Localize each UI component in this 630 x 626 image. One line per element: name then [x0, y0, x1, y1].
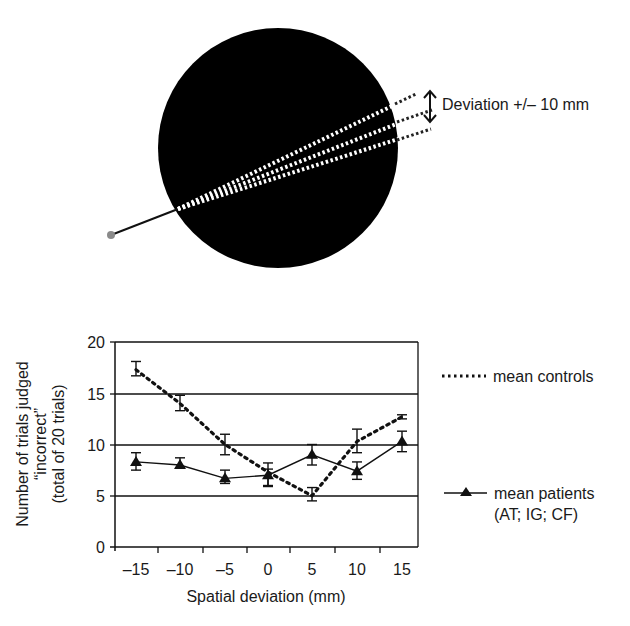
y-tick-0: 0	[96, 539, 105, 556]
triangle-marker-icon	[306, 449, 318, 459]
x-tick-m5: –5	[216, 561, 234, 578]
y-tick-15: 15	[87, 386, 105, 403]
legend: mean controls mean patients (AT; IG; CF)	[442, 368, 595, 523]
y-axis-label: Number of trials judged “incorrect” (tot…	[14, 361, 67, 526]
triangle-marker-icon	[174, 459, 186, 469]
figure-canvas: Deviation +/– 10 mm	[0, 0, 630, 626]
pointer-line	[111, 209, 178, 235]
y-tick-5: 5	[96, 488, 105, 505]
x-tick-m10: –10	[167, 561, 194, 578]
series-mean-controls	[131, 361, 407, 500]
target-circle	[158, 28, 398, 268]
x-tick-0: 0	[264, 561, 273, 578]
x-tick-10: 10	[348, 561, 366, 578]
x-tick-labels: –15 –10 –5 0 5 10 15	[123, 561, 411, 578]
x-tick-15: 15	[393, 561, 411, 578]
y-axis-label-line1: Number of trials judged	[14, 361, 31, 526]
legend-controls-label: mean controls	[493, 368, 594, 385]
y-axis-label-line3: (total of 20 trials)	[50, 384, 67, 503]
x-tick-m15: –15	[123, 561, 150, 578]
legend-patients-label-line1: mean patients	[494, 485, 595, 502]
y-tick-labels: 0 5 10 15 20	[87, 334, 105, 556]
x-tick-5: 5	[308, 561, 317, 578]
legend-patients-label-line2: (AT; IG; CF)	[494, 506, 578, 523]
deviation-diagram: Deviation +/– 10 mm	[107, 28, 589, 268]
y-axis-label-line2: “incorrect”	[32, 408, 49, 480]
x-ticks	[158, 547, 380, 553]
double-arrow-icon	[424, 91, 436, 122]
chart: 0 5 10 15 20 –15 –10 –5 0 5 10 15 Spatia…	[14, 334, 418, 605]
y-tick-10: 10	[87, 437, 105, 454]
triangle-marker-icon	[460, 487, 472, 496]
deviation-label: Deviation +/– 10 mm	[442, 96, 589, 113]
triangle-marker-icon	[130, 456, 142, 466]
x-axis-label: Spatial deviation (mm)	[186, 588, 345, 605]
triangle-marker-icon	[396, 435, 408, 445]
pointer-dot-icon	[107, 231, 115, 239]
y-tick-20: 20	[87, 334, 105, 351]
trajectory-middle-ext	[397, 110, 432, 122]
series-mean-patients	[130, 431, 408, 486]
